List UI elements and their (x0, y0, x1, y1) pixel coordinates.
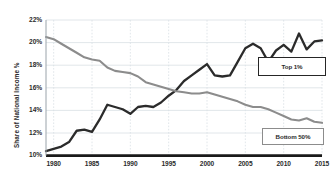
plot-area (0, 0, 332, 182)
x-axis-tick-2015: 2015 (306, 160, 332, 167)
y-axis-tick-16: 16% (20, 84, 42, 91)
y-axis-tick-18: 18% (20, 61, 42, 68)
legend-item-top-1-percent[interactable]: Top 1% (258, 57, 326, 76)
x-axis-tick-1980: 1980 (38, 160, 70, 167)
legend-label-top-1-percent: Top 1% (282, 63, 303, 70)
x-axis-tick-1985: 1985 (76, 160, 108, 167)
x-axis-tick-1995: 1995 (153, 160, 185, 167)
y-axis-tick-12: 12% (20, 129, 42, 136)
income-share-line-chart: Share of National Income % 10%12%14%16%1… (0, 0, 332, 182)
y-axis-tick-10: 10% (20, 151, 42, 158)
x-axis-tick-2005: 2005 (229, 160, 261, 167)
legend-item-bottom-50-percent[interactable]: Bottom 50% (262, 128, 324, 145)
legend-label-bottom-50-percent: Bottom 50% (276, 133, 311, 140)
x-axis-tick-2000: 2000 (191, 160, 223, 167)
y-axis-tick-14: 14% (20, 106, 42, 113)
y-axis-tick-22: 22% (20, 16, 42, 23)
x-axis-tick-2010: 2010 (268, 160, 300, 167)
x-axis-tick-1990: 1990 (114, 160, 146, 167)
y-axis-tick-20: 20% (20, 38, 42, 45)
